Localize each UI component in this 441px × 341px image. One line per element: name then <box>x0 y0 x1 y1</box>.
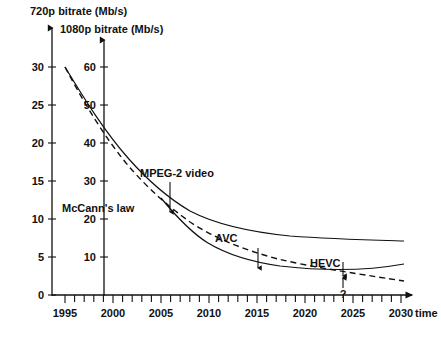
x-tick-1995: 1995 <box>53 307 77 319</box>
x-tick-2005: 2005 <box>149 307 173 319</box>
y-axis-title-720p: 720p bitrate (Mb/s) <box>30 5 128 17</box>
y-left-tick-20: 20 <box>32 137 44 149</box>
x-tick-2025: 2025 <box>341 307 365 319</box>
y-inner-tick-60: 60 <box>84 61 96 73</box>
annotation-label-mpeg2: MPEG-2 video <box>140 167 214 179</box>
y-inner-tick-20: 20 <box>84 213 96 225</box>
annotation-label-hevc: HEVC <box>310 257 341 269</box>
annotation-label-avc: AVC <box>215 232 237 244</box>
chart-background <box>0 0 441 341</box>
y-inner-tick-10: 10 <box>84 251 96 263</box>
bitrate-evolution-chart: 720p bitrate (Mb/s) 1080p bitrate (Mb/s)… <box>0 0 441 341</box>
x-tick-2010: 2010 <box>197 307 221 319</box>
y-axis-title-1080p: 1080p bitrate (Mb/s) <box>60 23 164 35</box>
annotation-label-question-mark: ? <box>340 288 347 300</box>
y-left-tick-5: 5 <box>38 251 44 263</box>
y-left-tick-0: 0 <box>38 289 44 301</box>
y-left-tick-30: 30 <box>32 61 44 73</box>
y-inner-tick-40: 40 <box>84 137 96 149</box>
x-tick-2015: 2015 <box>245 307 269 319</box>
x-axis-label-time: time <box>415 307 438 319</box>
x-tick-2020: 2020 <box>293 307 317 319</box>
x-tick-2030: 2030 <box>389 307 413 319</box>
y-inner-tick-30: 30 <box>84 175 96 187</box>
x-tick-2000: 2000 <box>101 307 125 319</box>
annotation-mccanns-law: McCann's law <box>62 202 135 214</box>
annotation-label-mccann: McCann's law <box>62 202 135 214</box>
y-left-tick-25: 25 <box>32 99 44 111</box>
y-left-tick-10: 10 <box>32 213 44 225</box>
y-left-tick-15: 15 <box>32 175 44 187</box>
